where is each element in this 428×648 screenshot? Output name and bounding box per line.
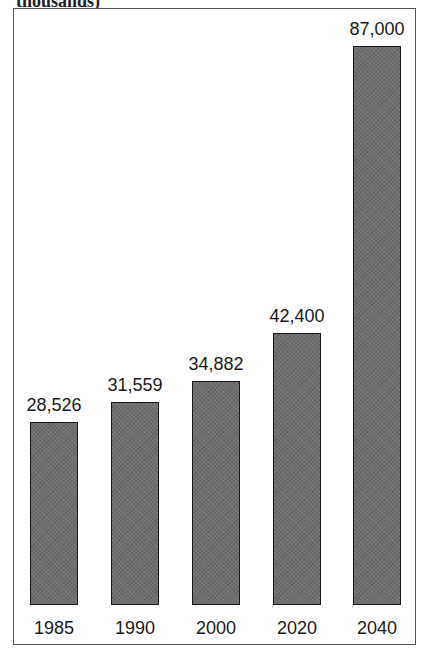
value-label: 34,882 [171,354,261,375]
bar-2040 [353,46,401,605]
bar-1985 [30,422,78,605]
bar-1990 [111,402,159,605]
category-label: 1985 [9,618,99,639]
bar-2000 [192,381,240,605]
value-label: 42,400 [252,306,342,327]
category-label: 2000 [171,618,261,639]
category-label: 2020 [252,618,342,639]
value-label: 31,559 [90,375,180,396]
category-label: 2040 [332,618,422,639]
value-label: 87,000 [332,19,422,40]
value-label: 28,526 [9,395,99,416]
bar-2020 [273,333,321,605]
category-label: 1990 [90,618,180,639]
